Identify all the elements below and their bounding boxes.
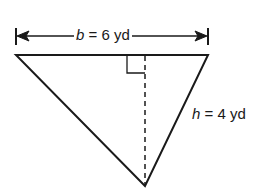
height-label: h = 4 yd (190, 105, 248, 122)
base-value: 6 yd (101, 26, 129, 43)
height-value: 4 yd (217, 105, 245, 122)
base-label: b = 6 yd (74, 26, 132, 43)
triangle-diagram: b = 6 yd h = 4 yd (0, 0, 280, 190)
triangle-shape (16, 55, 208, 186)
height-variable: h (192, 105, 200, 122)
triangle-figure (0, 0, 280, 190)
height-equals: = (205, 105, 214, 122)
base-equals: = (89, 26, 98, 43)
base-variable: b (76, 26, 84, 43)
right-angle-marker (127, 56, 145, 73)
